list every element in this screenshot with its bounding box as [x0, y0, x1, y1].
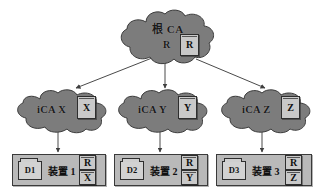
device-2-certificate-stack: R Y — [181, 155, 198, 185]
pki-hierarchy-diagram: 根 CA R R iCA X X iCA Y Y iCA Z Z D1 装置 1… — [0, 0, 326, 192]
ica-y-certificate[interactable]: Y — [178, 96, 197, 119]
device-1-icon: D1 — [18, 161, 42, 180]
device-3-icon: D3 — [222, 161, 246, 180]
ica-x-certificate[interactable]: X — [77, 96, 96, 119]
device-2-root-certificate[interactable]: R — [181, 155, 198, 170]
device-3-ica-certificate[interactable]: Z — [285, 170, 302, 185]
device-1-ica-certificate[interactable]: X — [79, 170, 96, 185]
device-2-label: 装置 2 — [150, 163, 178, 178]
ica-y-cloud: iCA Y — [113, 88, 213, 134]
root-ca-cloud: 根 CA R — [116, 8, 218, 66]
ica-x-cloud: iCA X — [12, 88, 112, 134]
root-ca-certificate[interactable]: R — [180, 34, 199, 56]
device-2-icon: D2 — [120, 161, 144, 180]
ica-z-certificate[interactable]: Z — [281, 96, 300, 119]
device-1-certificate-stack: R X — [79, 155, 96, 185]
ica-z-cloud: iCA Z — [216, 88, 316, 134]
device-2-ica-certificate[interactable]: Y — [181, 170, 198, 185]
device-3-label: 装置 3 — [252, 163, 280, 178]
device-1-root-certificate[interactable]: R — [79, 155, 96, 170]
device-3-root-certificate[interactable]: R — [285, 155, 302, 170]
device-1-label: 装置 1 — [48, 163, 76, 178]
device-3-certificate-stack: R Z — [285, 155, 302, 185]
